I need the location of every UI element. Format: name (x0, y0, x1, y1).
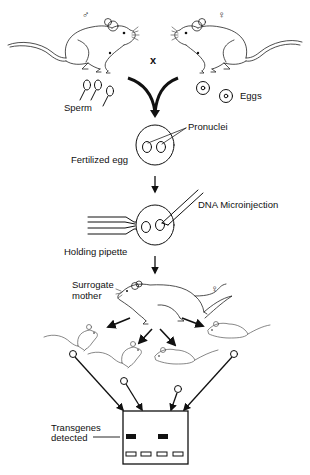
gel-band-positive (158, 434, 168, 439)
eggs-icon (197, 82, 233, 103)
transgenic-mouse-diagram: ♂ ♀ x Sperm Eggs (0, 0, 310, 475)
dna-microinjection-label: DNA Microinjection (198, 199, 278, 210)
offspring-mouse-icon (44, 325, 97, 352)
transgenes-label-line2: detected (51, 432, 87, 443)
sperm-label: Sperm (64, 102, 92, 113)
female-symbol: ♀ (218, 9, 226, 20)
gel-panel (123, 411, 188, 464)
fertilized-egg-icon (136, 125, 174, 165)
surrogate-mother-label-line1: Surrogate (72, 279, 114, 290)
surrogate-female-symbol: ♀ (211, 283, 219, 294)
male-symbol: ♂ (82, 9, 90, 20)
gel-well (126, 452, 136, 456)
gel-well (141, 452, 151, 456)
gel-well (173, 452, 183, 456)
cross-symbol: x (150, 54, 157, 66)
female-mouse-icon (171, 19, 302, 74)
injection-needle-icon (162, 190, 203, 225)
fertilized-egg-label: Fertilized egg (71, 154, 128, 165)
surrogate-mother-label-line2: mother (72, 290, 102, 301)
male-mouse-icon (8, 19, 139, 74)
eggs-label: Eggs (240, 90, 262, 101)
gel-band-positive (126, 434, 136, 439)
offspring-arrows (108, 318, 203, 345)
sample-lines (70, 351, 238, 411)
offspring-mouse-icon (155, 348, 218, 365)
holding-pipette-label: Holding pipette (64, 246, 127, 257)
offspring-mouse-icon (88, 342, 141, 369)
pronuclei-label: Pronuclei (188, 121, 228, 132)
holding-pipette-icon (88, 217, 136, 234)
gel-well (157, 452, 167, 456)
merge-arrow-icon (128, 78, 178, 118)
offspring-mouse-icon (208, 322, 270, 339)
pronuclei-pointer (148, 128, 186, 144)
